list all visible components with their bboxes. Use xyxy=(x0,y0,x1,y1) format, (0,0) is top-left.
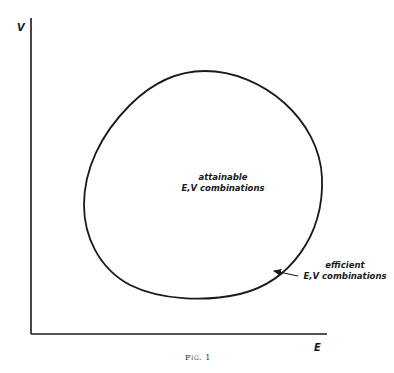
attainable-label-line1: attainable xyxy=(168,172,278,183)
attainable-region-label: attainable E,V combinations xyxy=(168,172,278,194)
x-axis-label: E xyxy=(314,342,321,353)
attainable-label-line2: E,V combinations xyxy=(168,183,278,194)
efficient-arrow xyxy=(274,271,298,276)
figure-caption: Fig. 1 xyxy=(185,353,211,362)
efficient-label-line1: efficient xyxy=(296,260,394,271)
y-axis-label: V xyxy=(17,22,25,33)
efficient-label-line2: E,V combinations xyxy=(296,271,394,282)
efficient-label: efficient E,V combinations xyxy=(296,260,394,282)
